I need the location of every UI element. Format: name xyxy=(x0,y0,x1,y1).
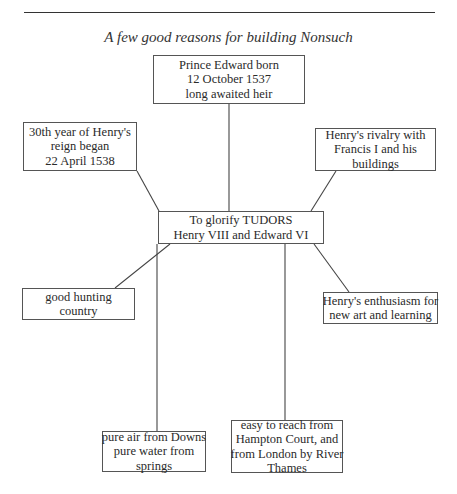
node-line: Henry's rivalry with xyxy=(325,128,425,143)
link-enthusiasm xyxy=(314,244,349,292)
link-rivalry xyxy=(311,171,336,211)
node-line: pure air from Downs xyxy=(102,430,207,445)
node-line: Henry's enthusiasm for xyxy=(323,294,438,309)
node-line: long awaited heir xyxy=(186,87,273,102)
node-rivalry: Henry's rivalry with Francis I and his b… xyxy=(315,128,436,171)
link-hunting xyxy=(115,244,170,288)
node-center-glorify-tudors: To glorify TUDORS Henry VIII and Edward … xyxy=(158,211,324,244)
node-line: 12 October 1537 xyxy=(187,72,271,87)
node-line: 30th year of Henry's xyxy=(29,125,131,140)
node-thirtieth-year: 30th year of Henry's reign began 22 Apri… xyxy=(23,122,137,171)
node-line: buildings xyxy=(352,157,399,172)
node-enthusiasm: Henry's enthusiasm for new art and learn… xyxy=(323,292,438,324)
node-line: easy to reach from xyxy=(241,418,334,433)
node-line: from London by River xyxy=(231,447,344,462)
node-line: Francis I and his xyxy=(334,142,417,157)
node-hunting: good hunting country xyxy=(22,288,135,320)
center-line: To glorify TUDORS xyxy=(189,213,292,228)
link-thirtieth-year xyxy=(137,171,159,211)
center-line: Henry VIII and Edward VI xyxy=(174,228,309,243)
node-line: 22 April 1538 xyxy=(45,154,114,169)
node-line: country xyxy=(59,304,97,319)
node-prince-edward: Prince Edward born 12 October 1537 long … xyxy=(153,55,305,104)
node-line: Thames xyxy=(267,461,307,476)
node-line: reign began xyxy=(51,139,110,154)
node-pure-air: pure air from Downs pure water from spri… xyxy=(102,431,206,472)
node-line: new art and learning xyxy=(329,308,431,323)
node-line: springs xyxy=(136,459,172,474)
node-line: Prince Edward born xyxy=(179,58,279,73)
node-line: pure water from xyxy=(114,444,195,459)
node-line: Hampton Court, and xyxy=(236,432,338,447)
node-line: good hunting xyxy=(45,290,111,305)
node-easy-reach: easy to reach from Hampton Court, and fr… xyxy=(231,420,343,473)
